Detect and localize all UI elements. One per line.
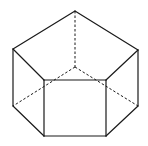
- hidden-edges: [13, 11, 138, 106]
- visible-edge: [106, 50, 138, 80]
- visible-edge: [13, 49, 44, 80]
- visible-edge: [13, 11, 75, 49]
- visible-edge: [13, 106, 44, 136]
- visible-edge: [106, 106, 138, 136]
- pentagonal-prism-diagram: [0, 0, 148, 146]
- visible-edge: [75, 11, 138, 50]
